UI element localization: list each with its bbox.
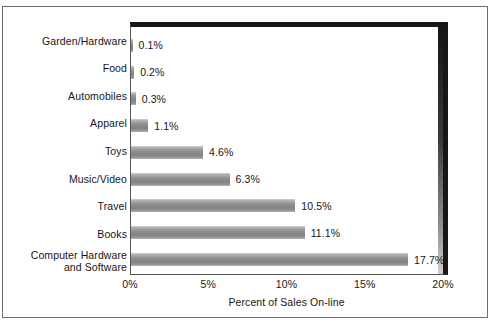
- x-axis-tick: 20%: [432, 278, 453, 290]
- y-axis-label-garden-hardware: Garden/Hardware: [10, 29, 127, 53]
- x-axis-tick: 10%: [276, 278, 297, 290]
- y-axis-label-computer-hardware-and-software: Computer Hardware and Software: [10, 249, 127, 273]
- bar-value-label: 6.3%: [236, 173, 260, 185]
- bar-row: 17.7%: [131, 248, 438, 272]
- y-axis-label-toys: Toys: [10, 139, 127, 163]
- y-axis-label-books: Books: [10, 222, 127, 246]
- bar-value-label: 0.3%: [142, 93, 166, 105]
- chart-figure: Garden/Hardware Food Automobiles Apparel…: [0, 0, 491, 324]
- x-axis-tick-labels: 0% 5% 10% 15% 20%: [130, 278, 443, 292]
- bar-row: 0.1%: [131, 33, 438, 57]
- bar-rows: 0.1% 0.2% 0.3% 1.1% 4.6%: [131, 32, 438, 273]
- bar-row: 6.3%: [131, 167, 438, 191]
- y-axis-label-apparel: Apparel: [10, 111, 127, 135]
- y-axis-label-text: Travel: [98, 200, 127, 212]
- y-axis-label-line-1: Computer Hardware: [31, 249, 127, 261]
- bar-value-label: 4.6%: [209, 146, 233, 158]
- bar-automobiles[interactable]: [131, 92, 136, 105]
- y-axis-category-labels: Garden/Hardware Food Automobiles Apparel…: [10, 27, 127, 275]
- bar-row: 0.2%: [131, 60, 438, 84]
- y-axis-label-text: Garden/Hardware: [42, 35, 127, 47]
- bar-value-label: 0.2%: [140, 66, 164, 78]
- y-axis-label-text-multiline: Computer Hardware and Software: [31, 249, 127, 273]
- y-axis-label-text: Automobiles: [68, 90, 127, 102]
- y-axis-label-text: Books: [97, 228, 127, 240]
- plot-right-border-shadow: [438, 27, 443, 274]
- bar-value-label: 10.5%: [301, 200, 331, 212]
- y-axis-label-travel: Travel: [10, 194, 127, 218]
- x-axis-tick: 15%: [354, 278, 375, 290]
- bar-garden-hardware[interactable]: [131, 39, 133, 52]
- bar-row: 4.6%: [131, 140, 438, 164]
- bar-value-label: 0.1%: [139, 39, 163, 51]
- bar-food[interactable]: [131, 66, 134, 79]
- bar-row: 1.1%: [131, 114, 438, 138]
- plot-wrapper: 0.1% 0.2% 0.3% 1.1% 4.6%: [130, 22, 448, 275]
- y-axis-label-text: Food: [103, 62, 127, 74]
- bar-row: 0.3%: [131, 87, 438, 111]
- y-axis-label-text: Apparel: [90, 117, 127, 129]
- y-axis-label-food: Food: [10, 56, 127, 80]
- bar-row: 10.5%: [131, 194, 438, 218]
- x-axis-tick: 0%: [122, 278, 137, 290]
- bar-books[interactable]: [131, 226, 305, 239]
- bar-value-label: 1.1%: [154, 120, 178, 132]
- bar-row: 11.1%: [131, 221, 438, 245]
- y-axis-label-music-video: Music/Video: [10, 167, 127, 191]
- bar-value-label: 17.7%: [414, 254, 444, 266]
- bar-toys[interactable]: [131, 146, 203, 159]
- bar-computer-hardware-and-software[interactable]: [131, 253, 408, 266]
- y-axis-label-text: Music/Video: [69, 173, 127, 185]
- plot-area: 0.1% 0.2% 0.3% 1.1% 4.6%: [130, 22, 448, 275]
- y-axis-label-automobiles: Automobiles: [10, 84, 127, 108]
- bar-travel[interactable]: [131, 199, 295, 212]
- bar-apparel[interactable]: [131, 119, 148, 132]
- y-axis-label-text: Toys: [105, 145, 127, 157]
- bar-value-label: 11.1%: [311, 227, 341, 239]
- y-axis-label-line-2: and Software: [64, 261, 127, 273]
- x-axis-title: Percent of Sales On-line: [130, 296, 443, 308]
- x-axis-tick: 5%: [201, 278, 216, 290]
- bar-music-video[interactable]: [131, 173, 230, 186]
